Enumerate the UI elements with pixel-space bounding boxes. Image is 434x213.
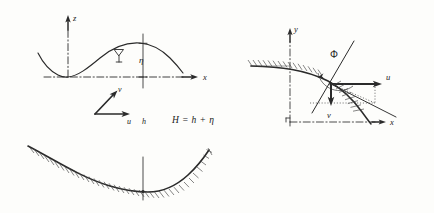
z-axis [65, 15, 70, 77]
z-axis-label: z [72, 13, 77, 23]
slope-velocity-panel: y x [248, 24, 396, 127]
u-vector-label: u [127, 117, 131, 126]
y-axis-slope [287, 28, 292, 122]
y-axis-label-slope: y [293, 24, 298, 34]
u-vector [95, 111, 130, 117]
x-axis-label: x [202, 72, 207, 82]
x-axis-label-slope: x [389, 117, 394, 127]
bed-hatching [28, 146, 212, 198]
angle-arc [318, 73, 353, 91]
bed-lowest-point [141, 190, 144, 193]
wave-surface-curve [38, 43, 183, 77]
v-vector-slope-label: v [327, 110, 331, 120]
wave-profile-panel: z x η [38, 13, 207, 88]
angle-phi-label: Φ [330, 49, 338, 60]
channel-bed-panel [28, 146, 212, 200]
figure-canvas: z x η [0, 0, 434, 213]
bed-profile-curve [28, 146, 209, 192]
h-label: h [142, 117, 146, 126]
equation-text: H = h + η [171, 115, 214, 125]
water-surface-triangle-icon [115, 50, 124, 63]
u-vector-slope [331, 81, 382, 88]
velocity-vector-panel: u v h [95, 85, 146, 126]
v-vector [95, 91, 118, 115]
v-vector-label: v [118, 85, 122, 94]
tangent-line [331, 84, 396, 117]
u-vector-slope-label: u [386, 72, 390, 82]
figure-svg: z x η [0, 0, 434, 213]
eta-label: η [139, 55, 144, 65]
